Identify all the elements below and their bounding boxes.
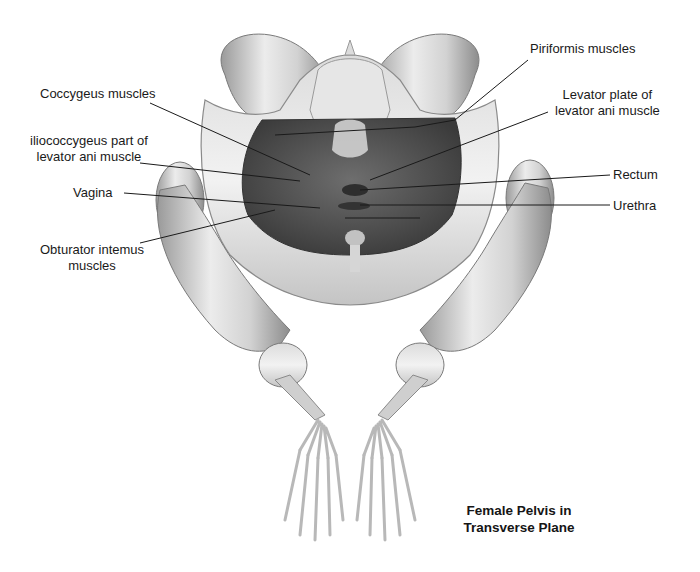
feet (285, 420, 415, 540)
label-coccygeus-muscles: Coccygeus muscles (40, 86, 156, 102)
label-obturator-internus: Obturator intemus muscles (40, 242, 144, 274)
label-text: Vagina (73, 185, 113, 200)
label-text: muscles (40, 258, 144, 274)
pelvis-diagram: Coccygeus muscles iliococcygeus part of … (0, 0, 700, 572)
label-text: Urethra (613, 198, 656, 213)
pubic-symphysis (345, 230, 365, 246)
title-line: Transverse Plane (434, 519, 604, 536)
label-piriformis-muscles: Piriformis muscles (530, 41, 635, 57)
label-text: Levator plate of (555, 87, 660, 103)
label-rectum: Rectum (613, 167, 658, 183)
label-iliococcygeus: iliococcygeus part of levator ani muscle (30, 133, 148, 165)
label-text: Rectum (613, 167, 658, 182)
label-urethra: Urethra (613, 198, 656, 214)
vagina-shape (338, 202, 370, 210)
label-text: iliococcygeus part of (30, 133, 148, 149)
title-line: Female Pelvis in (434, 502, 604, 519)
label-text: levator ani muscle (555, 103, 660, 119)
label-levator-plate: Levator plate of levator ani muscle (555, 87, 660, 119)
label-text: levator ani muscle (30, 149, 148, 165)
label-vagina: Vagina (73, 185, 113, 201)
label-text: Coccygeus muscles (40, 86, 156, 101)
figure-title: Female Pelvis in Transverse Plane (434, 502, 604, 536)
label-text: Piriformis muscles (530, 41, 635, 56)
label-text: Obturator intemus (40, 242, 144, 258)
